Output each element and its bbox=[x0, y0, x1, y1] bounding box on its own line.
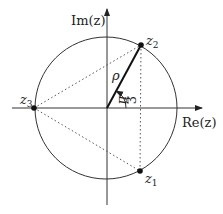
angle-label: π 3 bbox=[114, 95, 139, 105]
point-z1 bbox=[137, 168, 143, 174]
y-axis-label: Im(z) bbox=[71, 13, 105, 28]
z2-label: z2 bbox=[145, 33, 159, 50]
x-axis-label: Re(z) bbox=[182, 115, 216, 130]
rho-label: ρ bbox=[111, 68, 120, 83]
z3-label: z3 bbox=[19, 92, 33, 109]
z1-label: z1 bbox=[144, 171, 158, 188]
complex-plane-diagram: Im(z) Re(z) z2 z1 z3 ρ π 3 bbox=[0, 0, 223, 214]
dotted-z3-z1 bbox=[34, 108, 140, 171]
svg-text:3: 3 bbox=[124, 96, 139, 104]
point-z2 bbox=[138, 42, 144, 48]
